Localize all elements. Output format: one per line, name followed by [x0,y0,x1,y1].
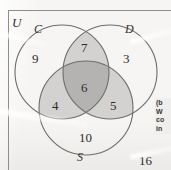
universal-set-label: U [12,16,21,29]
region-count-d-and-s: 5 [110,99,117,112]
region-count-c-only: 9 [32,52,39,65]
region-count-d-only: 3 [123,52,130,65]
caption-line-3: co [156,116,171,125]
set-label-s: S [77,151,83,163]
region-count-c-and-d-and-s: 6 [81,81,88,94]
caption-fragment: (b W co in [155,98,171,134]
caption-line-2: W [156,108,171,117]
region-count-outside-all: 16 [139,154,152,167]
region-count-s-only: 10 [79,131,92,144]
set-label-d: D [125,23,134,35]
set-label-c: C [34,23,42,35]
caption-line-4: in [156,125,171,134]
region-count-c-and-s: 4 [52,99,59,112]
venn-diagram-figure: U C D S 9 3 10 7 4 5 6 16 (b W co in [0,0,171,170]
region-count-c-and-d: 7 [81,41,88,54]
caption-line-1: (b [156,99,171,108]
